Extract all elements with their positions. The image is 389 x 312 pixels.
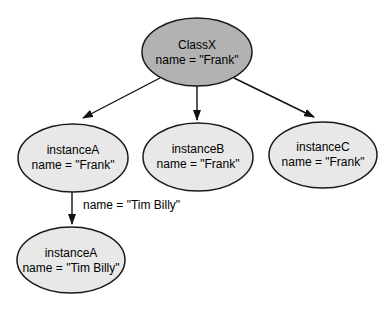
edge-label-rename: name = "Tim Billy" <box>83 198 180 212</box>
node-instancec-attribute: name = "Frank" <box>282 155 365 169</box>
edge-classx-to-instancea <box>83 78 160 118</box>
node-instancea-title: instanceA <box>47 143 100 157</box>
edge-classx-to-instancec <box>234 78 314 117</box>
object-diagram: name = "Tim Billy" ClassX name = "Frank"… <box>0 0 389 312</box>
node-classx: ClassX name = "Frank" <box>142 18 252 86</box>
node-instancea-attribute: name = "Frank" <box>32 158 115 172</box>
node-instancec-title: instanceC <box>296 140 350 154</box>
diagram-canvas: name = "Tim Billy" ClassX name = "Frank"… <box>0 0 389 312</box>
node-instanceb: instanceB name = "Frank" <box>143 123 253 191</box>
node-instancea-renamed-attribute: name = "Tim Billy" <box>22 261 119 275</box>
node-instanceb-title: instanceB <box>172 142 225 156</box>
node-instancec: instanceC name = "Frank" <box>269 122 377 188</box>
node-instancea: instanceA name = "Frank" <box>18 124 128 192</box>
node-instancea-renamed-title: instanceA <box>45 246 98 260</box>
node-instanceb-attribute: name = "Frank" <box>157 157 240 171</box>
node-classx-shape <box>142 18 252 86</box>
node-classx-attribute: name = "Frank" <box>156 53 239 67</box>
node-instancea-renamed-shape <box>17 227 125 293</box>
node-instancea-renamed: instanceA name = "Tim Billy" <box>17 227 125 293</box>
node-classx-title: ClassX <box>178 38 216 52</box>
